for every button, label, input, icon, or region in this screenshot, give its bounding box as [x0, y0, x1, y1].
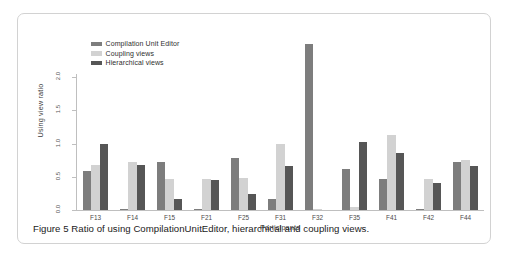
bar	[313, 209, 321, 210]
x-axis-tick-label: F13	[77, 214, 114, 221]
bar	[248, 194, 256, 210]
bar	[83, 171, 91, 210]
chart-legend: Compilation Unit EditorCoupling viewsHie…	[91, 39, 179, 68]
y-axis-tick-mark	[72, 77, 76, 78]
legend-item: Coupling views	[91, 49, 179, 59]
x-axis-tick-label: F41	[373, 214, 410, 221]
y-axis-tick-label: 0.0	[55, 197, 61, 221]
bar	[194, 209, 202, 210]
legend-item-label: Compilation Unit Editor	[106, 40, 180, 47]
x-axis-tick-label: F14	[114, 214, 151, 221]
figure-card: Using view ratio Participants 0.00.51.01…	[17, 13, 491, 244]
y-axis-tick-label: 0.5	[55, 164, 61, 188]
bar	[239, 178, 247, 210]
bar-group	[379, 14, 405, 210]
bar	[350, 207, 358, 210]
bar	[379, 179, 387, 210]
bar	[157, 162, 165, 210]
bar	[285, 166, 293, 210]
x-axis-tick-label: F31	[262, 214, 299, 221]
legend-item: Compilation Unit Editor	[91, 39, 179, 49]
bar	[433, 183, 441, 210]
bar	[137, 165, 145, 210]
y-axis-tick-mark	[72, 210, 76, 211]
bar-group	[342, 14, 368, 210]
bar	[470, 166, 478, 210]
bar	[174, 199, 182, 210]
bar	[268, 199, 276, 210]
bar-group	[231, 14, 257, 210]
y-axis-tick-mark	[72, 144, 76, 145]
bar	[453, 162, 461, 210]
x-axis-tick-label: F25	[225, 214, 262, 221]
y-axis-tick-label: 1.5	[55, 97, 61, 121]
x-axis-tick-label: F21	[188, 214, 225, 221]
legend-swatch-icon	[91, 61, 102, 66]
bar	[416, 209, 424, 210]
x-axis-tick-label: F44	[447, 214, 484, 221]
x-axis-line	[76, 210, 484, 211]
y-axis-tick-mark	[72, 177, 76, 178]
figure-caption: Figure 5 Ratio of using CompilationUnitE…	[33, 223, 479, 234]
bar	[424, 179, 432, 210]
bar	[128, 162, 136, 210]
x-axis-tick-label: F35	[336, 214, 373, 221]
legend-item-label: Hierarchical views	[106, 59, 164, 66]
bar	[211, 180, 219, 210]
bar-group	[416, 14, 442, 210]
legend-swatch-icon	[91, 51, 102, 56]
x-axis-tick-label: F15	[151, 214, 188, 221]
bar	[120, 209, 128, 210]
legend-item-label: Coupling views	[106, 50, 154, 57]
bar-group	[453, 14, 479, 210]
bar	[100, 144, 108, 211]
bar	[165, 179, 173, 210]
y-axis-tick-mark	[72, 110, 76, 111]
bar	[387, 135, 395, 210]
legend-swatch-icon	[91, 42, 102, 47]
x-axis-tick-label: F42	[410, 214, 447, 221]
bar	[461, 160, 469, 210]
y-axis-title: Using view ratio	[36, 63, 45, 159]
bar	[276, 144, 284, 210]
bar	[342, 169, 350, 210]
bar-group	[305, 14, 331, 210]
x-axis-tick-label: F32	[299, 214, 336, 221]
y-axis-tick-label: 2.0	[55, 64, 61, 88]
bar	[231, 158, 239, 210]
legend-item: Hierarchical views	[91, 58, 179, 68]
bar-group	[194, 14, 220, 210]
chart-plot-region: Using view ratio Participants 0.00.51.01…	[18, 14, 492, 217]
bar	[359, 142, 367, 210]
y-axis-tick-label: 1.0	[55, 131, 61, 155]
bar	[396, 153, 404, 210]
bar-group	[268, 14, 294, 210]
bar	[305, 44, 313, 210]
bar	[202, 179, 210, 210]
bar	[91, 165, 99, 210]
